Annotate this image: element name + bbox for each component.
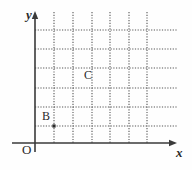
origin-label: O [22, 143, 31, 156]
x-axis-label: x [176, 146, 183, 159]
vertical-gridlines-group [54, 12, 147, 143]
axes-group [12, 11, 177, 152]
point-label-b: B [42, 110, 50, 122]
point-label-c: C [84, 69, 92, 81]
point-marker-b [52, 124, 55, 127]
y-axis-arrowhead [32, 11, 38, 19]
point-markers-group [52, 124, 55, 127]
y-axis-label: y [26, 8, 32, 21]
coordinate-grid-figure: y x O B C [0, 0, 192, 170]
horizontal-gridlines-group [35, 30, 178, 126]
